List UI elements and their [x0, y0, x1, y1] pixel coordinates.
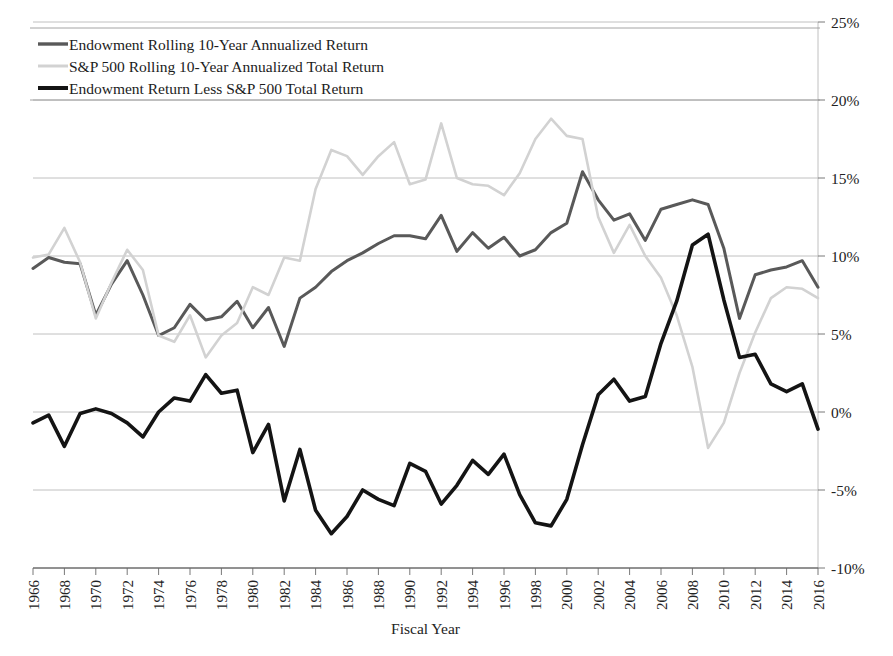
x-axis-tick-label: 2000 [559, 580, 575, 610]
chart-figure: 25%20%15%10%5%0%-5%-10% 1966196819701972… [0, 0, 893, 656]
y-axis-tick-label: 10% [831, 248, 860, 265]
page-title-remnant [330, 0, 570, 2]
x-axis-tick-label: 1976 [183, 580, 199, 611]
x-axis-tick-label: 1970 [88, 580, 104, 610]
x-axis-tick-label: 1996 [497, 580, 513, 611]
x-axis-tick-label: 1978 [214, 580, 230, 610]
x-axis-tick-label: 2002 [591, 580, 607, 610]
x-axis-tick-label: 2016 [811, 580, 827, 611]
x-axis-labels-group: 1966196819701972197419761978198019821984… [26, 580, 827, 611]
x-axis-tick-label: 1968 [57, 580, 73, 610]
y-axis-labels-group: 25%20%15%10%5%0%-5%-10% [831, 14, 865, 577]
x-axis-tick-label: 1998 [528, 580, 544, 610]
x-axis-tick-label: 2012 [748, 580, 764, 610]
y-axis-tick-label: 5% [831, 326, 852, 343]
y-axis-tick-label: 20% [831, 92, 860, 109]
x-axis-title: Fiscal Year [391, 620, 461, 637]
x-axis-tick-label: 2006 [654, 580, 670, 611]
x-axis-tick-label: 2004 [622, 580, 638, 611]
data-series-group [33, 119, 818, 534]
x-axis-tick-label: 1966 [26, 580, 42, 611]
y-axis-ticks-group [818, 22, 825, 568]
series-line-1 [33, 119, 818, 448]
line-chart: 25%20%15%10%5%0%-5%-10% 1966196819701972… [0, 0, 893, 656]
x-axis-tick-label: 1988 [371, 580, 387, 610]
y-axis-tick-label: 0% [831, 404, 852, 421]
x-axis-tick-label: 2014 [779, 580, 795, 611]
x-axis-tick-label: 1980 [245, 580, 261, 610]
x-axis-tick-label: 1986 [340, 580, 356, 611]
chart-legend: Endowment Rolling 10-Year Annualized Ret… [30, 28, 820, 100]
y-axis-tick-label: 15% [831, 170, 860, 187]
x-axis-tick-label: 2008 [685, 580, 701, 610]
y-axis-tick-label: -5% [831, 482, 857, 499]
x-axis-tick-label: 2010 [716, 580, 732, 610]
series-line-2 [33, 234, 818, 534]
y-axis-tick-label: -10% [831, 560, 865, 577]
x-axis-tick-label: 1990 [402, 580, 418, 610]
y-axis-tick-label: 25% [831, 14, 860, 31]
x-axis-tick-label: 1984 [308, 580, 324, 611]
legend-label-0: Endowment Rolling 10-Year Annualized Ret… [69, 36, 368, 53]
legend-label-2: Endowment Return Less S&P 500 Total Retu… [69, 80, 364, 97]
gridlines-group [33, 22, 818, 568]
x-axis-tick-label: 1982 [277, 580, 293, 610]
x-axis-ticks-group [33, 568, 818, 575]
x-axis-tick-label: 1974 [151, 580, 167, 611]
series-line-0 [33, 172, 818, 347]
x-axis-tick-label: 1972 [120, 580, 136, 610]
x-axis-tick-label: 1994 [465, 580, 481, 611]
x-axis-tick-label: 1992 [434, 580, 450, 610]
legend-label-1: S&P 500 Rolling 10-Year Annualized Total… [69, 58, 384, 75]
